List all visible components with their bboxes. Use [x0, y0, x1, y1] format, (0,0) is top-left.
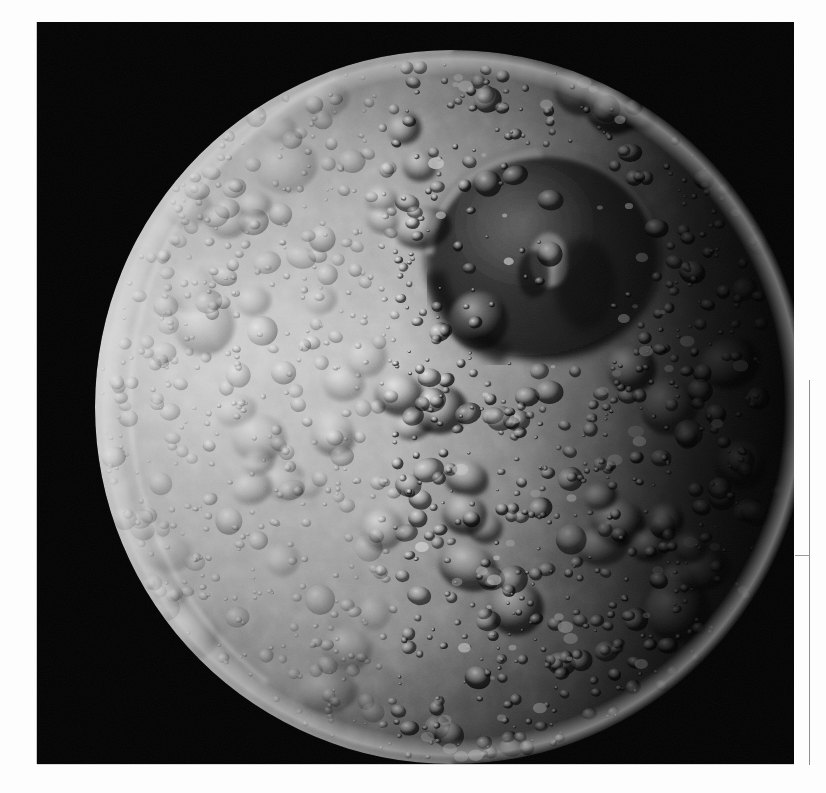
photographic-plate	[37, 22, 794, 764]
page-horizontal-tick	[795, 555, 810, 556]
plate-bottom-edge-shade	[37, 764, 794, 765]
mimas-moon	[37, 22, 794, 764]
page-canvas	[0, 0, 826, 793]
page-vertical-rule	[809, 380, 810, 765]
mimas-render	[37, 22, 794, 764]
